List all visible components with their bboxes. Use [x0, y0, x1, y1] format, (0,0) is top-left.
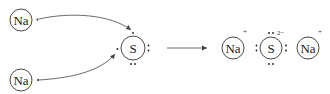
sulfide-ion-charge: 2− — [277, 29, 285, 37]
sulfur-atom-label: S — [129, 41, 136, 56]
ionic-bond-diagram: Na Na S Na + S 2− — [0, 0, 330, 94]
sulfide-electron-left-1 — [256, 45, 258, 47]
electron-transfer-arrow-bottom — [39, 54, 115, 80]
sulfide-electron-bottom-1 — [268, 63, 270, 65]
sodium-ion-left-label: Na — [225, 41, 240, 56]
sodium-ion-right-charge: + — [318, 28, 322, 36]
sulfide-electron-right-2 — [285, 50, 287, 52]
sulfide-ion: S 2− — [260, 29, 285, 65]
sodium-bottom-valence-electron — [37, 79, 39, 81]
sulfide-electron-right-1 — [285, 45, 287, 47]
sulfur-electron-bottom-2 — [134, 63, 136, 65]
sodium-ion-right-label: Na — [300, 41, 315, 56]
sulfur-electron-left — [117, 48, 119, 50]
sulfide-ion-label: S — [267, 41, 274, 56]
sulfur-electron-bottom-1 — [130, 63, 132, 65]
electron-transfer-arrow-top — [39, 15, 131, 30]
sodium-atom-bottom-label: Na — [13, 73, 28, 88]
sulfide-electron-left-2 — [256, 50, 258, 52]
sulfur-electron-right-2 — [148, 50, 150, 52]
sulfur-electron-top — [132, 32, 134, 34]
sulfur-electron-right-1 — [148, 45, 150, 47]
sulfur-atom: S — [117, 32, 150, 65]
sodium-atom-bottom: Na — [10, 69, 39, 91]
sodium-ion-right: Na + — [297, 28, 322, 59]
sodium-ion-left: Na + — [222, 28, 247, 59]
sodium-top-valence-electron — [37, 19, 39, 21]
sodium-ion-left-charge: + — [243, 28, 247, 36]
sulfide-electron-top-1 — [268, 32, 270, 34]
sodium-atom-top-label: Na — [13, 13, 28, 28]
sulfide-electron-top-2 — [272, 32, 274, 34]
sulfide-electron-bottom-2 — [272, 63, 274, 65]
sodium-atom-top: Na — [10, 9, 38, 31]
